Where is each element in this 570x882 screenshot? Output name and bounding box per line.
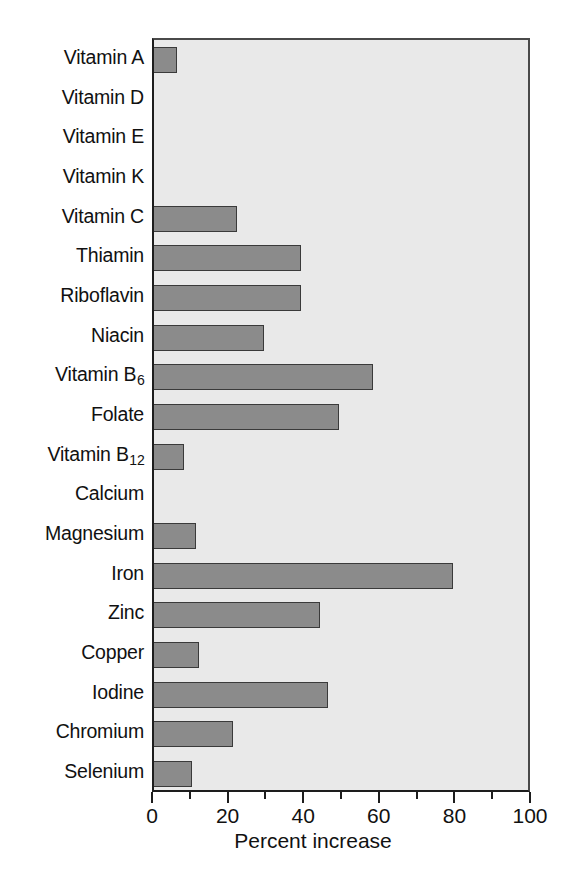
category-label-riboflavin: Riboflavin xyxy=(60,286,144,306)
category-label-iodine: Iodine xyxy=(92,683,144,703)
bar-zinc[interactable] xyxy=(153,602,320,628)
x-tick-10 xyxy=(189,792,191,799)
category-label-chromium: Chromium xyxy=(56,722,144,742)
bar-row xyxy=(154,364,528,390)
category-label-vitamin-a: Vitamin A xyxy=(64,48,144,68)
x-tick-40 xyxy=(302,792,304,803)
x-tick-60 xyxy=(378,792,380,803)
bar-folate[interactable] xyxy=(153,404,339,430)
bar-niacin[interactable] xyxy=(153,325,264,351)
bar-row xyxy=(154,682,528,708)
bar-vitamin-b6[interactable] xyxy=(153,364,373,390)
category-label-niacin: Niacin xyxy=(91,326,144,346)
bar-row xyxy=(154,483,528,509)
bar-selenium[interactable] xyxy=(153,761,192,787)
bar-row xyxy=(154,285,528,311)
bar-row xyxy=(154,325,528,351)
bar-row xyxy=(154,166,528,192)
x-tick-label-60: 60 xyxy=(367,805,390,826)
x-tick-label-80: 80 xyxy=(443,805,466,826)
bar-row xyxy=(154,642,528,668)
x-tick-label-100: 100 xyxy=(512,805,547,826)
x-tick-20 xyxy=(227,792,229,803)
x-tick-100 xyxy=(529,792,531,803)
bar-row xyxy=(154,206,528,232)
plot-area xyxy=(152,38,530,792)
bar-row xyxy=(154,404,528,430)
bar-vitamin-b12[interactable] xyxy=(153,444,184,470)
category-label-magnesium: Magnesium xyxy=(45,524,144,544)
category-label-vitamin-b6: Vitamin B6 xyxy=(55,365,144,385)
bar-row xyxy=(154,602,528,628)
category-label-thiamin: Thiamin xyxy=(76,246,144,266)
bar-thiamin[interactable] xyxy=(153,245,301,271)
category-label-vitamin-k: Vitamin K xyxy=(63,167,144,187)
bar-row xyxy=(154,523,528,549)
category-label-iron: Iron xyxy=(111,564,144,584)
x-tick-label-40: 40 xyxy=(292,805,315,826)
category-label-selenium: Selenium xyxy=(64,762,144,782)
bar-vitamin-c[interactable] xyxy=(153,206,237,232)
x-tick-90 xyxy=(491,792,493,799)
bar-row xyxy=(154,563,528,589)
x-axis-title: Percent increase xyxy=(0,830,570,851)
bar-row xyxy=(154,245,528,271)
bar-copper[interactable] xyxy=(153,642,199,668)
bar-vitamin-a[interactable] xyxy=(153,47,177,73)
bar-iron[interactable] xyxy=(153,563,453,589)
x-tick-70 xyxy=(416,792,418,799)
x-tick-30 xyxy=(264,792,266,799)
bar-chart-figure: Vitamin AVitamin DVitamin EVitamin KVita… xyxy=(0,0,570,882)
category-label-vitamin-d: Vitamin D xyxy=(62,88,144,108)
bar-row xyxy=(154,761,528,787)
x-tick-50 xyxy=(340,792,342,799)
category-label-zinc: Zinc xyxy=(108,603,144,623)
bar-iodine[interactable] xyxy=(153,682,328,708)
x-tick-label-0: 0 xyxy=(146,805,158,826)
bar-magnesium[interactable] xyxy=(153,523,196,549)
bar-chromium[interactable] xyxy=(153,721,233,747)
bar-riboflavin[interactable] xyxy=(153,285,301,311)
bar-row xyxy=(154,444,528,470)
category-label-vitamin-c: Vitamin C xyxy=(62,207,144,227)
category-label-copper: Copper xyxy=(81,643,144,663)
category-label-vitamin-e: Vitamin E xyxy=(63,127,144,147)
category-label-folate: Folate xyxy=(91,405,144,425)
x-axis-title-text: Percent increase xyxy=(234,830,392,851)
category-label-vitamin-b12: Vitamin B12 xyxy=(47,445,144,465)
bar-row xyxy=(154,721,528,747)
x-tick-80 xyxy=(453,792,455,803)
bar-row xyxy=(154,47,528,73)
x-tick-0 xyxy=(151,792,153,803)
x-tick-label-20: 20 xyxy=(216,805,239,826)
bar-row xyxy=(154,87,528,113)
category-label-calcium: Calcium xyxy=(75,484,144,504)
bar-row xyxy=(154,126,528,152)
